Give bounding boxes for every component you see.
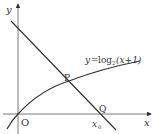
y-axis-label: y [5, 4, 12, 15]
origin-label: O [21, 117, 29, 128]
x0-label: x 0 [92, 119, 101, 130]
svg-text:x: x [92, 119, 97, 129]
svg-text:2: 2 [112, 60, 115, 66]
svg-text:0: 0 [98, 124, 101, 130]
graph-diagram: y x O P Q x 0 y = log 2 (x+1) [0, 0, 156, 134]
svg-text:y: y [84, 55, 91, 65]
point-p-label: P [64, 73, 70, 83]
svg-text:(x+1): (x+1) [116, 55, 142, 65]
svg-text:log: log [98, 55, 112, 65]
x-axis-label: x [144, 117, 150, 128]
curve-equation-label: y = log 2 (x+1) [84, 55, 142, 66]
point-q-label: Q [99, 104, 106, 114]
